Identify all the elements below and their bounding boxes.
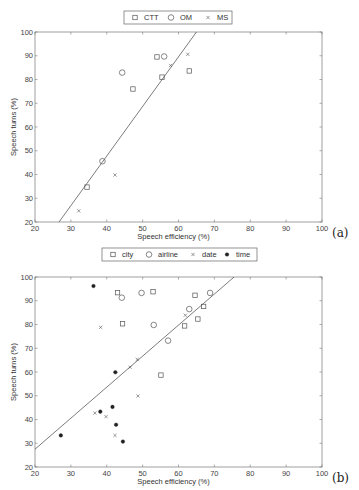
plot-area <box>35 32 322 222</box>
circle-marker <box>186 306 192 312</box>
x-marker <box>93 411 96 414</box>
x-tick-label: 30 <box>67 469 75 478</box>
x-tick-label: 40 <box>103 469 111 478</box>
legend-label: OM <box>180 13 192 22</box>
x-marker <box>184 314 187 317</box>
legend-label: time <box>236 250 250 259</box>
x-tick-label: 30 <box>67 224 75 233</box>
y-tick-label: 50 <box>25 146 33 155</box>
y-tick-label: 20 <box>25 218 33 227</box>
filled-dot-marker <box>111 405 115 409</box>
filled-dot-marker <box>92 284 96 288</box>
series-city <box>115 290 206 378</box>
x-tick-label: 90 <box>282 469 290 478</box>
square-marker <box>182 324 186 328</box>
y-tick-label: 20 <box>25 463 33 472</box>
filled-dot-marker <box>59 434 63 438</box>
x-axis-label: Speech efficiency (%) <box>137 477 210 486</box>
scatter-plot-b: 20304050607080901002030405060708090100Sp… <box>0 245 359 490</box>
x-tick-label: 100 <box>316 469 329 478</box>
square-marker <box>196 317 200 321</box>
series-ctt <box>85 55 192 190</box>
y-tick-label: 60 <box>25 368 33 377</box>
x-marker <box>104 415 107 418</box>
circle-marker <box>151 322 157 328</box>
circle-marker <box>119 295 125 301</box>
square-marker <box>131 87 135 91</box>
legend-filled-dot-icon <box>225 253 229 257</box>
circle-marker <box>119 70 125 76</box>
x-tick-label: 100 <box>316 224 329 233</box>
x-tick-label: 70 <box>210 224 218 233</box>
x-marker <box>99 326 102 329</box>
filled-dot-marker <box>121 440 125 444</box>
circle-marker <box>139 290 145 296</box>
y-tick-label: 80 <box>25 320 33 329</box>
filled-dot-marker <box>114 423 118 427</box>
y-tick-label: 30 <box>25 194 33 203</box>
series-date <box>93 314 187 437</box>
x-marker <box>169 64 172 67</box>
x-tick-label: 40 <box>103 224 111 233</box>
x-axis-label: Speech efficiency (%) <box>137 232 210 241</box>
y-tick-label: 90 <box>25 296 33 305</box>
y-tick-label: 100 <box>20 273 33 282</box>
square-marker <box>193 293 197 297</box>
y-axis-label: Speech turns (%) <box>9 343 18 401</box>
scatter-plot-a: 20304050607080901002030405060708090100Sp… <box>0 0 359 245</box>
y-tick-label: 90 <box>25 51 33 60</box>
circle-marker <box>207 290 213 296</box>
y-tick-label: 40 <box>25 170 33 179</box>
plot-area <box>35 277 322 467</box>
square-marker <box>120 322 124 326</box>
square-marker <box>187 69 191 73</box>
x-marker <box>113 434 116 437</box>
legend-label: MS <box>217 13 228 22</box>
y-tick-label: 60 <box>25 123 33 132</box>
x-marker <box>186 53 189 56</box>
x-tick-label: 80 <box>246 224 254 233</box>
x-marker <box>113 173 116 176</box>
square-marker <box>151 290 155 294</box>
square-marker <box>155 55 159 59</box>
chart-panel-a: 20304050607080901002030405060708090100Sp… <box>0 0 359 245</box>
x-marker <box>128 366 131 369</box>
legend-label: CTT <box>144 13 159 22</box>
y-tick-label: 50 <box>25 391 33 400</box>
y-tick-label: 70 <box>25 344 33 353</box>
circle-marker <box>161 54 167 60</box>
x-tick-label: 90 <box>282 224 290 233</box>
y-tick-label: 100 <box>20 28 33 37</box>
square-marker <box>159 373 163 377</box>
legend: cityairlinedatetime <box>102 248 257 261</box>
y-tick-label: 40 <box>25 415 33 424</box>
legend-label: airline <box>158 250 178 259</box>
filled-dot-marker <box>114 370 118 374</box>
series-om <box>100 54 167 164</box>
y-tick-label: 30 <box>25 439 33 448</box>
series-ms <box>77 53 189 213</box>
y-tick-label: 80 <box>25 75 33 84</box>
panel-label-b: (b) <box>332 471 349 485</box>
y-axis-label: Speech turns (%) <box>9 98 18 156</box>
chart-panel-b: 20304050607080901002030405060708090100Sp… <box>0 245 359 490</box>
x-tick-label: 80 <box>246 469 254 478</box>
square-marker <box>115 290 119 294</box>
panel-label-a: (a) <box>332 226 349 240</box>
circle-marker <box>100 158 106 164</box>
x-marker <box>136 394 139 397</box>
x-tick-label: 70 <box>210 469 218 478</box>
x-marker <box>77 209 80 212</box>
filled-dot-marker <box>98 410 102 414</box>
legend-label: date <box>202 250 217 259</box>
regression-line <box>59 32 196 222</box>
legend: CTTOMMS <box>124 11 232 24</box>
legend-label: city <box>122 250 134 259</box>
y-tick-label: 70 <box>25 99 33 108</box>
regression-line <box>35 277 234 449</box>
circle-marker <box>165 338 171 344</box>
